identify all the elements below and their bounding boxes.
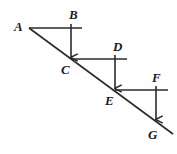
vertex-label-F: F — [152, 71, 161, 84]
vertex-label-G: G — [148, 128, 157, 141]
vertex-label-C: C — [61, 63, 70, 76]
vertex-label-A: A — [14, 20, 23, 33]
vertex-label-D: D — [113, 40, 122, 53]
vertex-label-B: B — [69, 8, 78, 21]
geometry-figure: A B C D E F G — [0, 0, 177, 154]
vertex-label-E: E — [105, 94, 114, 107]
